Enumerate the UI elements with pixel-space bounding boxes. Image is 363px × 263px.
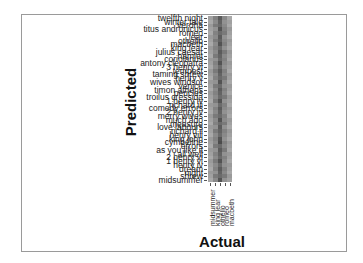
y-tick-mark <box>204 165 207 166</box>
heatmap-grid <box>208 16 232 182</box>
x-tick-mark <box>220 183 221 186</box>
x-tick-mark <box>230 183 231 186</box>
y-tick-mark <box>204 59 207 60</box>
y-tick-mark <box>204 112 207 113</box>
heatmap-cell <box>227 178 232 182</box>
y-tick-mark <box>204 169 207 170</box>
y-tick-mark <box>204 116 207 117</box>
y-tick-mark <box>204 139 207 140</box>
y-tick-mark <box>204 90 207 91</box>
y-tick-mark <box>204 105 207 106</box>
x-tick-mark <box>215 183 216 186</box>
y-tick-mark <box>204 124 207 125</box>
y-tick-mark <box>204 161 207 162</box>
y-tick-mark <box>204 101 207 102</box>
y-tick-mark <box>204 33 207 34</box>
y-tick-mark <box>204 41 207 42</box>
y-tick-mark <box>204 63 207 64</box>
y-tick-mark <box>204 78 207 79</box>
y-tick-mark <box>204 22 207 23</box>
y-tick-mark <box>204 157 207 158</box>
y-tick-mark <box>204 18 207 19</box>
y-tick-label: midsummer <box>159 176 203 184</box>
y-tick-mark <box>204 173 207 174</box>
y-tick-mark <box>204 29 207 30</box>
y-tick-mark <box>204 120 207 121</box>
y-tick-mark <box>204 67 207 68</box>
y-tick-mark <box>204 44 207 45</box>
y-tick-mark <box>204 71 207 72</box>
y-tick-mark <box>204 82 207 83</box>
y-tick-mark <box>204 37 207 38</box>
y-tick-mark <box>204 93 207 94</box>
y-tick-mark <box>204 48 207 49</box>
y-tick-mark <box>204 131 207 132</box>
y-tick-mark <box>204 146 207 147</box>
x-tick-label: macbeth <box>228 199 235 226</box>
y-tick-mark <box>204 86 207 87</box>
x-tick-mark <box>210 183 211 186</box>
y-tick-mark <box>204 135 207 136</box>
y-tick-mark <box>204 180 207 181</box>
y-tick-mark <box>204 25 207 26</box>
y-tick-mark <box>204 142 207 143</box>
x-axis-title: Actual <box>199 233 245 250</box>
y-tick-mark <box>204 56 207 57</box>
y-axis-title: Predicted <box>122 68 139 136</box>
y-tick-mark <box>204 150 207 151</box>
x-tick-mark <box>225 183 226 186</box>
y-tick-mark <box>204 108 207 109</box>
y-tick-mark <box>204 74 207 75</box>
y-tick-mark <box>204 176 207 177</box>
y-tick-mark <box>204 52 207 53</box>
y-tick-mark <box>204 127 207 128</box>
y-tick-mark <box>204 154 207 155</box>
y-tick-mark <box>204 97 207 98</box>
